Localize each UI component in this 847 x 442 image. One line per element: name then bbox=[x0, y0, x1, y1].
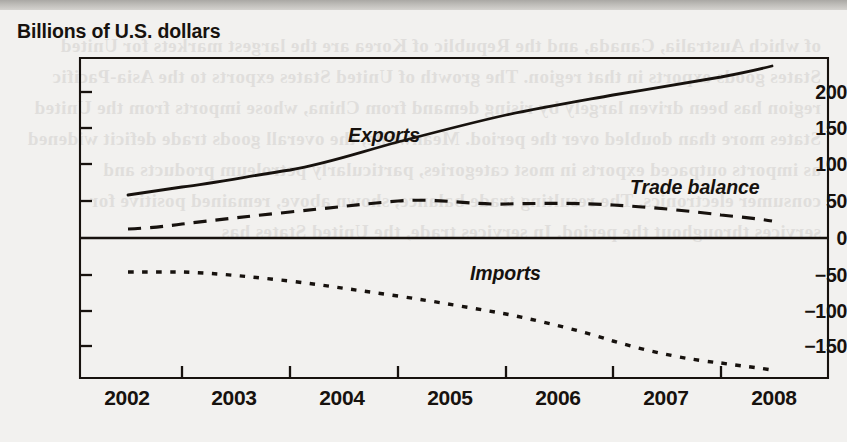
series-line-exports bbox=[128, 66, 772, 195]
series-line-trade-balance bbox=[128, 200, 772, 229]
series-line-imports bbox=[128, 272, 772, 370]
plot-area bbox=[0, 0, 847, 442]
chart-figure: Billions of U.S. dollars 200 150 100 50 … bbox=[0, 0, 847, 442]
plot-frame bbox=[80, 58, 828, 378]
y-axis-ticks bbox=[80, 92, 92, 346]
x-axis-ticks bbox=[182, 366, 721, 378]
